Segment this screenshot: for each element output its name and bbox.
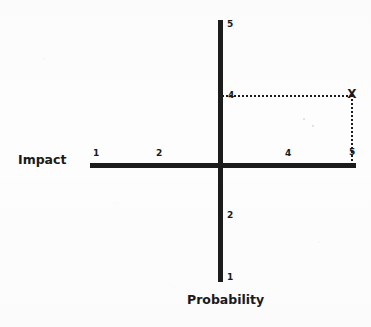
risk-point-marker-x[interactable]: X [347, 88, 356, 100]
probability-axis-title: Probability [187, 292, 264, 307]
scan-speck [312, 125, 314, 127]
impact-tick-label-1: 1 [227, 272, 233, 282]
impact-axis-line [218, 20, 223, 282]
impact-tick-label-2: 2 [227, 210, 233, 220]
probability-tick-label-4: 4 [285, 148, 291, 158]
probability-axis-line [90, 163, 356, 168]
scan-speck [303, 118, 305, 120]
impact-tick-label-4: 4 [228, 90, 234, 100]
impact-axis-title: Impact [18, 152, 66, 167]
guide-line-horizontal [222, 95, 352, 97]
probability-tick-label-2: 2 [156, 148, 162, 158]
risk-matrix-diagram: X 5 4 2 1 1 2 4 5 Impact Probability [0, 0, 371, 327]
impact-tick-label-5: 5 [227, 19, 233, 29]
probability-tick-label-5: 5 [349, 147, 355, 157]
probability-tick-label-1: 1 [93, 148, 99, 158]
